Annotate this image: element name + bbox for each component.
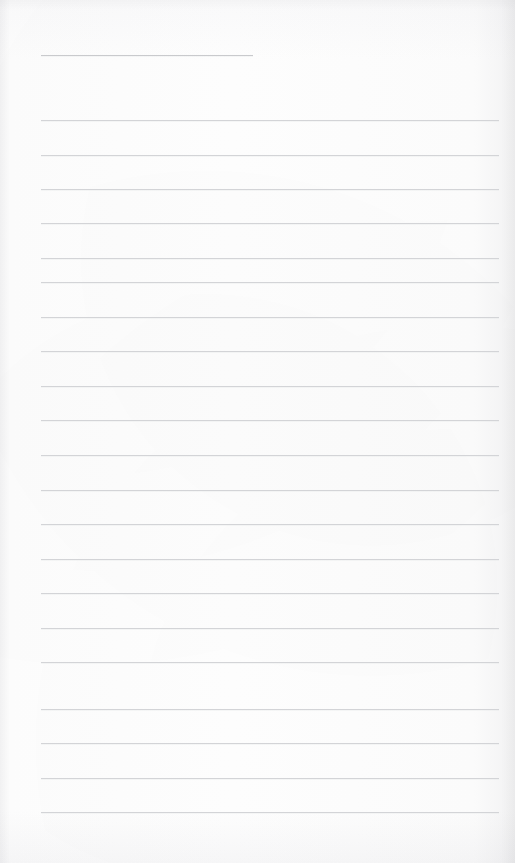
rule-line	[41, 155, 499, 156]
ruled-lines-layer	[0, 0, 515, 863]
rule-line	[41, 420, 499, 421]
rule-line	[41, 317, 499, 318]
rule-line	[41, 386, 499, 387]
rule-line	[41, 778, 499, 779]
rule-line	[41, 120, 499, 121]
rule-line	[41, 812, 499, 813]
rule-line	[41, 743, 499, 744]
rule-line	[41, 455, 499, 456]
rule-line	[41, 709, 499, 710]
rule-line	[41, 351, 499, 352]
rule-line	[41, 662, 499, 663]
rule-line	[41, 223, 499, 224]
page-canvas	[0, 0, 515, 863]
rule-line	[41, 490, 499, 491]
rule-line	[41, 282, 499, 283]
rule-line	[41, 524, 499, 525]
rule-line	[41, 559, 499, 560]
rule-line	[41, 628, 499, 629]
rule-line	[41, 593, 499, 594]
rule-line-partial	[41, 55, 253, 56]
rule-line	[41, 189, 499, 190]
rule-line	[41, 258, 499, 259]
